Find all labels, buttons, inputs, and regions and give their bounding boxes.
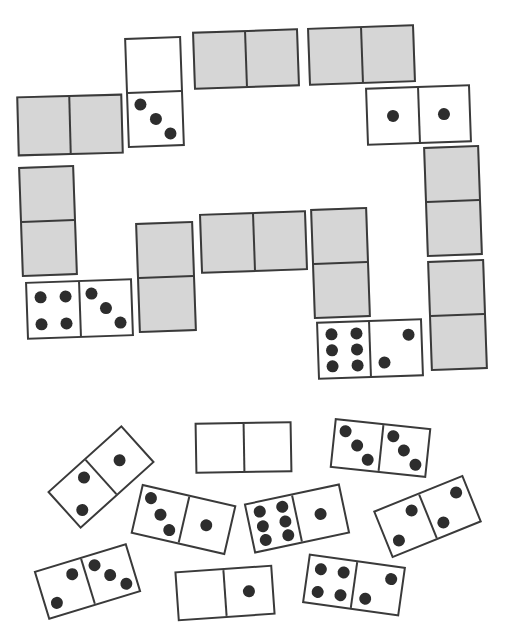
hidden-domino-slot[interactable] <box>307 24 416 86</box>
domino-half-b <box>431 315 486 369</box>
pip-dot-icon <box>149 113 161 125</box>
pip-dot-icon <box>143 491 157 505</box>
hidden-domino-slot[interactable] <box>135 221 197 333</box>
loose-domino[interactable] <box>329 418 431 478</box>
hidden-domino-slot[interactable] <box>192 28 300 90</box>
pip-dot-icon <box>73 501 90 518</box>
domino-half-b <box>179 496 234 552</box>
pip-dot-icon <box>403 502 419 518</box>
domino-half-b <box>362 26 414 82</box>
domino-half-a <box>196 423 244 471</box>
domino-half-b <box>246 30 298 86</box>
domino-half-b <box>139 277 195 331</box>
pip-dot-icon <box>350 439 363 452</box>
domino-half-a <box>20 167 74 223</box>
pip-dot-icon <box>384 572 398 586</box>
pip-dot-icon <box>391 532 407 548</box>
domino-half-a <box>425 147 479 203</box>
pip-dot-icon <box>243 585 256 598</box>
pip-dot-icon <box>387 110 399 122</box>
pip-dot-icon <box>34 291 46 303</box>
pip-dot-icon <box>336 565 350 579</box>
pip-dot-icon <box>35 318 47 330</box>
pip-dot-icon <box>199 517 213 531</box>
pip-dot-icon <box>325 328 337 340</box>
pip-dot-icon <box>361 453 374 466</box>
pip-dot-icon <box>162 522 176 536</box>
pip-dot-icon <box>313 506 327 520</box>
pip-dot-icon <box>275 500 289 514</box>
domino-half-a <box>304 556 358 608</box>
pip-dot-icon <box>386 430 399 443</box>
pip-dot-icon <box>252 504 266 518</box>
hidden-domino-slot[interactable] <box>18 165 78 277</box>
loose-domino[interactable] <box>244 483 350 553</box>
pip-dot-icon <box>378 356 390 368</box>
pip-dot-icon <box>102 567 117 582</box>
pip-dot-icon <box>350 343 362 355</box>
domino-half-b <box>379 425 429 476</box>
pip-dot-icon <box>64 566 79 581</box>
loose-domino[interactable] <box>130 483 236 555</box>
pip-dot-icon <box>333 588 347 602</box>
hidden-domino-slot[interactable] <box>16 94 124 157</box>
domino-half-b <box>314 263 369 317</box>
pip-dot-icon <box>314 562 328 576</box>
hidden-domino-slot[interactable] <box>310 207 371 319</box>
pip-dot-icon <box>86 558 101 573</box>
domino-half-b <box>80 280 132 336</box>
loose-domino[interactable] <box>372 474 481 558</box>
pip-dot-icon <box>59 290 71 302</box>
pip-dot-icon <box>281 527 295 541</box>
loose-domino[interactable] <box>33 542 141 619</box>
pip-dot-icon <box>111 452 128 469</box>
pip-dot-icon <box>165 127 177 139</box>
pip-dot-icon <box>326 360 338 372</box>
pip-dot-icon <box>100 302 112 314</box>
hidden-domino-slot[interactable] <box>199 210 308 274</box>
domino-half-a <box>318 322 372 378</box>
pip-dot-icon <box>118 575 133 590</box>
pip-dot-icon <box>338 425 351 438</box>
domino-half-a <box>126 38 181 94</box>
pip-dot-icon <box>350 327 362 339</box>
pip-dot-icon <box>402 328 414 340</box>
pip-dot-icon <box>447 484 463 500</box>
pip-dot-icon <box>278 513 292 527</box>
loose-domino[interactable] <box>174 565 275 622</box>
placed-domino <box>316 318 424 380</box>
domino-puzzle-board <box>0 0 505 633</box>
domino-half-a <box>367 88 420 144</box>
domino-half-b <box>70 96 121 153</box>
domino-half-b <box>128 92 183 146</box>
domino-half-b <box>254 212 306 270</box>
pip-dot-icon <box>397 444 410 457</box>
pip-dot-icon <box>85 287 97 299</box>
pip-dot-icon <box>351 359 363 371</box>
loose-domino[interactable] <box>194 421 292 474</box>
domino-half-a <box>194 32 248 88</box>
pip-dot-icon <box>255 518 269 532</box>
domino-half-a <box>18 97 71 154</box>
domino-half-a <box>429 261 484 317</box>
pip-dot-icon <box>258 532 272 546</box>
pip-dot-icon <box>325 344 337 356</box>
domino-half-a <box>331 420 383 471</box>
pip-dot-icon <box>134 99 146 111</box>
domino-half-b <box>224 567 273 616</box>
domino-half-b <box>244 423 290 471</box>
pip-dot-icon <box>438 108 450 120</box>
domino-half-a <box>312 209 367 265</box>
domino-half-a <box>27 282 81 338</box>
pip-dot-icon <box>49 595 64 610</box>
hidden-domino-slot[interactable] <box>423 145 483 257</box>
domino-half-a <box>137 223 193 279</box>
domino-half-a <box>177 570 228 619</box>
placed-domino <box>124 36 185 148</box>
pip-dot-icon <box>75 469 92 486</box>
domino-half-b <box>427 201 481 255</box>
loose-domino[interactable] <box>302 553 406 616</box>
pip-dot-icon <box>358 591 372 605</box>
hidden-domino-slot[interactable] <box>427 259 488 371</box>
placed-domino <box>365 84 472 146</box>
